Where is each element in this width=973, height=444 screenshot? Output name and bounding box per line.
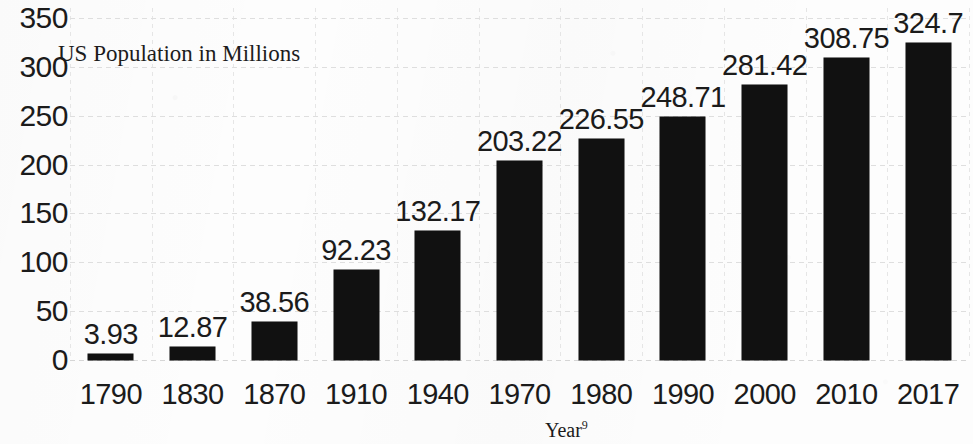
bar-value-label: 38.56 (240, 288, 310, 317)
x-axis-tick-label: 2010 (815, 380, 877, 409)
x-axis-tick-label: 2000 (734, 380, 796, 409)
bar-value-label: 92.23 (321, 236, 391, 265)
bar (415, 231, 460, 360)
chart-title: US Population in Millions (58, 42, 300, 65)
x-axis-title-footnote: 9 (582, 418, 588, 432)
x-axis-tick-label: 1940 (407, 380, 469, 409)
bar (334, 270, 379, 360)
plot-area: 3.93179012.87183038.56187092.231910132.1… (0, 0, 973, 444)
x-axis-title-text: Year (545, 419, 582, 441)
x-axis-tick-label: 1910 (325, 380, 387, 409)
bar-value-label: 3.93 (84, 320, 138, 349)
bar (88, 354, 133, 360)
x-axis-tick-label: 2017 (897, 380, 959, 409)
bar (170, 347, 215, 360)
x-axis-title: Year9 (545, 420, 588, 440)
bar-value-label: 226.55 (559, 105, 644, 134)
bar-value-label: 248.71 (640, 83, 725, 112)
x-axis-tick-label: 1870 (243, 380, 305, 409)
bar-value-label: 203.22 (477, 127, 562, 156)
bar-chart-figure: 350300250200150100500 3.93179012.8718303… (0, 0, 973, 444)
x-axis-tick-label: 1830 (162, 380, 224, 409)
x-axis-tick-label: 1990 (652, 380, 714, 409)
bar (906, 43, 951, 360)
bar-value-label: 281.42 (722, 51, 807, 80)
x-axis-tick-label: 1790 (80, 380, 142, 409)
bar (742, 85, 787, 360)
bar (579, 139, 624, 360)
bar-value-label: 324.7 (893, 9, 963, 38)
bar-value-label: 12.87 (158, 313, 228, 342)
bar-value-label: 308.75 (804, 24, 889, 53)
bar (660, 117, 705, 360)
bar (497, 161, 542, 360)
bar (824, 58, 869, 360)
x-axis-tick-label: 1970 (488, 380, 550, 409)
x-axis-tick-label: 1980 (570, 380, 632, 409)
bar (252, 322, 297, 360)
bar-value-label: 132.17 (395, 197, 480, 226)
